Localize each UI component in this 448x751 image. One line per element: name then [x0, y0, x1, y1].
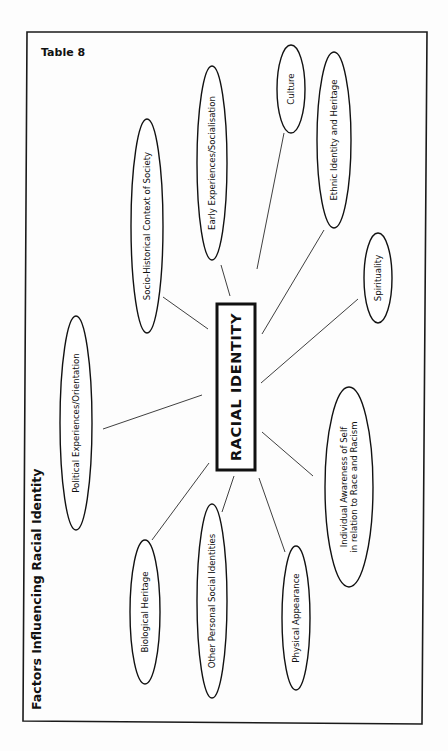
factor-node-ethnic-identity: Ethnic Identity and Heritage: [317, 52, 351, 228]
factor-label: Socio-Historical Context of Society: [142, 152, 152, 300]
factor-node-socio-historical: Socio-Historical Context of Society: [131, 119, 163, 333]
factor-node-early-experiences: Early Experiences/Socialisation: [197, 66, 227, 260]
center-node: RACIAL IDENTITY: [217, 304, 255, 470]
factor-label: Physical Appearance: [291, 573, 301, 662]
factor-node-political: Political Experiences/Orientation: [60, 316, 92, 530]
connector-individual-awareness: [262, 432, 313, 476]
factor-label: Other Personal Social Identities: [207, 533, 217, 668]
center-label: RACIAL IDENTITY: [228, 313, 244, 461]
connector-physical-appearance: [259, 478, 285, 552]
factor-label: in relation to Race and Racism: [349, 421, 359, 552]
connector-other-identities: [222, 476, 234, 512]
connector-socio-historical: [163, 297, 208, 329]
factor-node-individual-awareness: Individual Awareness of Selfin relation …: [325, 387, 373, 587]
factor-label: Biological Heritage: [140, 571, 150, 652]
diagram-heading: Factors Influencing Racial Identity: [29, 469, 44, 710]
factor-label: Ethnic Identity and Heritage: [329, 79, 339, 200]
factor-node-culture: Culture: [277, 45, 305, 133]
connector-biological-heritage: [152, 463, 209, 540]
factor-node-other-identities: Other Personal Social Identities: [197, 504, 227, 698]
factor-label: Political Experiences/Orientation: [71, 353, 81, 493]
connector-political: [103, 395, 202, 429]
factor-label: Spirituality: [373, 255, 383, 302]
table-label: Table 8: [41, 46, 85, 59]
connector-culture: [257, 133, 284, 269]
book-page: Table 8 Factors Influencing Racial Ident…: [0, 0, 448, 751]
racial-identity-diagram: Table 8 Factors Influencing Racial Ident…: [0, 0, 448, 751]
factor-label: Culture: [286, 73, 296, 104]
factor-node-spirituality: Spirituality: [364, 233, 392, 323]
factor-label: Individual Awareness of Self: [339, 426, 349, 548]
connector-early-experiences: [221, 265, 230, 296]
factor-node-physical-appearance: Physical Appearance: [282, 546, 310, 690]
factor-node-biological-heritage: Biological Heritage: [130, 540, 160, 684]
connector-ethnic-identity: [262, 230, 324, 334]
factor-label: Early Experiences/Socialisation: [207, 96, 217, 230]
